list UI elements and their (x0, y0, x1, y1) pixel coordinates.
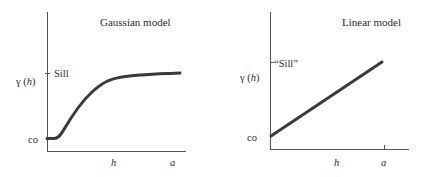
gaussian-model-panel: Gaussian model Sill γ (h) co h a (15, 12, 186, 168)
x-tick-a: a (170, 157, 175, 168)
gamma-symbol: γ ( (239, 72, 251, 84)
x-tick-h: h (111, 157, 116, 168)
co-label: co (247, 132, 257, 143)
sill-label: “Sill” (274, 58, 298, 69)
variogram-figure: Gaussian model Sill γ (h) co h a Linear … (0, 0, 423, 177)
linear-line (271, 62, 382, 136)
gaussian-curve (47, 73, 180, 139)
co-label: co (28, 134, 38, 145)
chart-title: Linear model (342, 16, 401, 28)
gamma-symbol: γ ( (15, 76, 27, 88)
paren-close: ) (32, 76, 36, 88)
sill-label: Sill (54, 68, 69, 79)
linear-model-panel: Linear model “Sill” γ (h) co h a (239, 12, 409, 168)
y-axis-label: γ (h) (15, 76, 36, 88)
chart-title: Gaussian model (100, 16, 171, 28)
paren-close: ) (256, 72, 260, 84)
x-tick-h: h (334, 157, 339, 168)
y-axis-label: γ (h) (239, 72, 260, 84)
x-tick-a: a (381, 157, 386, 168)
